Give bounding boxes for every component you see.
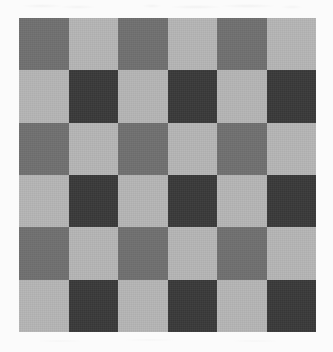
checkerboard-cell xyxy=(69,280,119,332)
scan-noise-bottom xyxy=(0,336,333,352)
checkerboard-cell xyxy=(118,227,168,279)
checkerboard-cell xyxy=(217,175,267,227)
checkerboard-cell xyxy=(267,227,317,279)
checkerboard-cell xyxy=(118,280,168,332)
checkerboard-cell xyxy=(19,70,69,122)
checkerboard-cell xyxy=(19,280,69,332)
checkerboard-cell xyxy=(69,70,119,122)
checkerboard-cell xyxy=(168,70,218,122)
checkerboard-cell xyxy=(118,18,168,70)
checkerboard-cell xyxy=(267,175,317,227)
checkerboard-cell xyxy=(69,227,119,279)
checkerboard-cell xyxy=(217,280,267,332)
checkerboard-cell xyxy=(69,123,119,175)
checkerboard-cell xyxy=(19,18,69,70)
checkerboard-cell xyxy=(118,175,168,227)
checkerboard-cell xyxy=(69,18,119,70)
checkerboard-cell xyxy=(19,227,69,279)
checkerboard-cell xyxy=(217,227,267,279)
checkerboard-cell xyxy=(69,175,119,227)
checkerboard-cell xyxy=(267,123,317,175)
checkerboard-cell xyxy=(168,18,218,70)
checkerboard-cell xyxy=(168,123,218,175)
checkerboard-cell xyxy=(217,70,267,122)
scan-noise-top xyxy=(0,0,333,14)
checkerboard-cell xyxy=(217,123,267,175)
checkerboard-cell xyxy=(168,280,218,332)
checkerboard-cell xyxy=(168,227,218,279)
checkerboard-cell xyxy=(19,123,69,175)
checkerboard-cell xyxy=(168,175,218,227)
checkerboard-grid xyxy=(19,18,316,332)
checkerboard-cell xyxy=(267,280,317,332)
checkerboard-cell xyxy=(118,70,168,122)
checkerboard-cell xyxy=(217,18,267,70)
checkerboard-cell xyxy=(267,18,317,70)
checkerboard-cell xyxy=(118,123,168,175)
checkerboard-cell xyxy=(19,175,69,227)
checkerboard-cell xyxy=(267,70,317,122)
